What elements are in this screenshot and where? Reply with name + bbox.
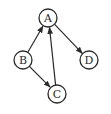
edges	[28, 24, 83, 87]
node-a-label: A	[43, 12, 53, 25]
node-b-label: B	[19, 54, 27, 67]
node-a: A	[39, 9, 57, 27]
edge-a-to-d	[55, 24, 83, 53]
node-b: B	[14, 51, 32, 69]
edge-c-to-a	[50, 27, 56, 85]
edge-b-to-c	[29, 66, 50, 87]
node-c: C	[48, 85, 66, 103]
node-d-label: D	[85, 54, 94, 67]
node-d: D	[80, 51, 98, 69]
edge-b-to-a	[28, 26, 43, 52]
graph-canvas: A B C D	[0, 0, 111, 114]
node-c-label: C	[53, 88, 61, 101]
